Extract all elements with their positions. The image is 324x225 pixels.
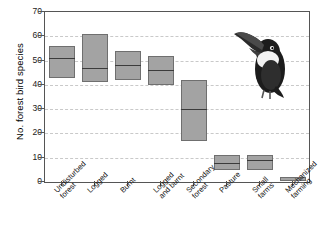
bar-logged xyxy=(82,34,108,83)
bar-undisturbed-forest xyxy=(49,46,75,78)
median-line xyxy=(82,68,108,69)
bar-small-farms xyxy=(247,155,273,170)
gridline xyxy=(45,133,309,134)
median-line xyxy=(181,109,207,110)
median-line xyxy=(214,163,240,164)
median-line xyxy=(247,160,273,161)
bar-secondary-forest xyxy=(181,80,207,141)
gridline xyxy=(45,109,309,110)
median-line xyxy=(148,70,174,71)
toucan-illustration-icon xyxy=(224,12,308,100)
bird-species-bar-chart: No. forest bird species 010203040506070 … xyxy=(0,0,324,225)
median-line xyxy=(115,65,141,66)
median-line xyxy=(49,58,75,59)
